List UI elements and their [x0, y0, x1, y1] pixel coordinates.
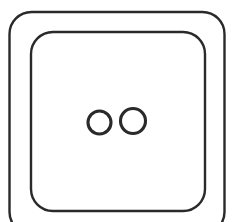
right-hole [121, 109, 146, 134]
drawing-canvas [0, 0, 233, 222]
button-line-drawing [0, 0, 233, 222]
outer-rounded-square [10, 12, 225, 222]
left-hole [88, 111, 111, 134]
inner-rounded-square [31, 32, 205, 211]
